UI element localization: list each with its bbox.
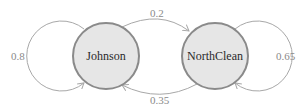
edge-johnson-to-northclean-prob: 0.2 [150, 7, 164, 19]
node-johnson-label: Johnson [86, 49, 125, 63]
node-johnson: Johnson [73, 23, 139, 89]
edge-johnson-to-northclean [122, 19, 189, 31]
node-northclean: NorthClean [182, 23, 248, 89]
edge-northclean-to-johnson-prob: 0.35 [150, 94, 170, 106]
self-loop-northclean-prob: 0.65 [276, 50, 296, 62]
markov-diagram: 0.8 0.65 0.2 0.35 Johnson NorthClean [0, 0, 307, 111]
self-loop-johnson-prob: 0.8 [11, 50, 25, 62]
edge-northclean-to-johnson [122, 84, 197, 94]
node-northclean-label: NorthClean [187, 49, 243, 63]
